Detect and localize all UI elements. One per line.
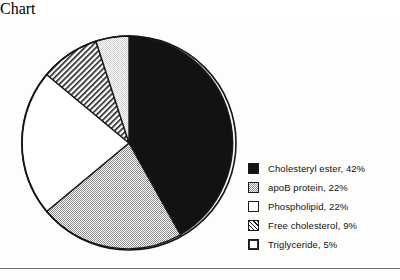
legend-item-label: apoB protein, 22% (268, 182, 348, 193)
legend-item-triglyceride: Triglyceride, 5% (248, 235, 396, 254)
legend-item-label: Cholesteryl ester, 42% (268, 163, 365, 174)
bottom-divider (0, 268, 400, 269)
diagonal-hatch-swatch-icon (248, 220, 259, 231)
white-swatch-icon (248, 201, 259, 212)
legend-item-label: Free cholesterol, 9% (268, 220, 357, 231)
legend-item-label: Phospholipid, 22% (268, 201, 348, 212)
legend-item-cholesteryl-ester: Cholesteryl ester, 42% (248, 159, 396, 178)
chart-figure: Cholesteryl ester, 42% apoB protein, 22%… (0, 18, 400, 280)
chart-legend: Cholesteryl ester, 42% apoB protein, 22%… (248, 159, 396, 254)
legend-item-apob-protein: apoB protein, 22% (248, 178, 396, 197)
legend-item-free-cholesterol: Free cholesterol, 9% (248, 216, 396, 235)
legend-item-phospholipid: Phospholipid, 22% (248, 197, 396, 216)
checker-light-swatch-icon (248, 239, 259, 250)
solid-black-swatch-icon (248, 163, 259, 174)
legend-item-label: Triglyceride, 5% (268, 239, 337, 250)
checker-gray-swatch-icon (248, 182, 259, 193)
